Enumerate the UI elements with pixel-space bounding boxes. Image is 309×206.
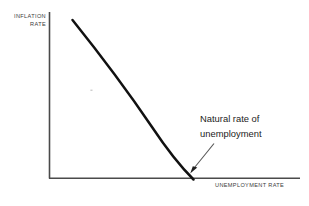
y-axis-label: INFLATION RATE — [8, 13, 46, 28]
annotation-arrow-line — [193, 144, 215, 171]
phillips-curve-path — [73, 20, 194, 180]
natural-rate-annotation-label: Natural rate of unemployment — [200, 112, 292, 141]
annotation-arrowhead-icon — [190, 166, 197, 173]
scan-artifact-speck — [90, 90, 92, 91]
phillips-curve-figure: INFLATION RATE UNEMPLOYMENT RATE Natural… — [0, 0, 309, 206]
x-axis-label: UNEMPLOYMENT RATE — [215, 182, 284, 190]
chart-canvas — [0, 0, 309, 206]
